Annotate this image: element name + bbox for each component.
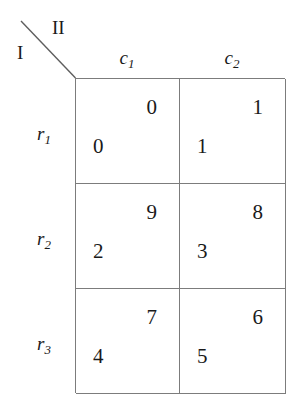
matrix-cell-r2c1: 9 2: [76, 184, 180, 289]
column-payoff-r3c1: 7: [147, 307, 158, 328]
column-payoff-r1c2: 1: [253, 97, 264, 118]
column-payoff-r1c1: 0: [147, 97, 158, 118]
column-header-c1-base: c: [120, 47, 128, 68]
matrix-cell-r3c1: 7 4: [76, 289, 180, 394]
row-payoff-r1c2: 1: [197, 136, 208, 157]
row-payoff-r2c2: 3: [197, 241, 208, 262]
column-header-c1-subscript: 1: [128, 56, 135, 71]
row-payoff-r3c2: 5: [197, 346, 208, 367]
column-header-c2-subscript: 2: [233, 56, 240, 71]
column-player-label: II: [52, 18, 65, 37]
column-payoff-r2c1: 9: [147, 202, 158, 223]
matrix-cell-r1c1: 0 0: [76, 79, 180, 184]
column-payoff-r2c2: 8: [253, 202, 264, 223]
column-header-c2-base: c: [225, 47, 233, 68]
row-header-r1: r1: [18, 124, 70, 146]
column-header-c2: c2: [179, 48, 285, 70]
row-header-r1-subscript: 1: [44, 132, 51, 147]
row-payoff-r3c1: 4: [93, 346, 104, 367]
payoff-matrix-grid: 0 0 1 1 9 2 8 3 7 4 6 5: [75, 78, 285, 393]
row-payoff-r2c1: 2: [93, 241, 104, 262]
row-header-r2: r2: [18, 229, 70, 251]
row-payoff-r1c1: 0: [93, 136, 104, 157]
matrix-cell-r3c2: 6 5: [180, 289, 286, 394]
column-payoff-r3c2: 6: [253, 307, 264, 328]
matrix-cell-r1c2: 1 1: [180, 79, 286, 184]
row-header-r3: r3: [18, 334, 70, 356]
matrix-cell-r2c2: 8 3: [180, 184, 286, 289]
row-header-r2-subscript: 2: [44, 237, 51, 252]
bimatrix-payoff-figure: I II c1 c2 r1 r2 r3 0 0 1 1 9 2 8 3: [0, 0, 300, 418]
row-player-label: I: [17, 43, 23, 62]
column-header-c1: c1: [75, 48, 179, 70]
row-header-r3-subscript: 3: [44, 342, 51, 357]
